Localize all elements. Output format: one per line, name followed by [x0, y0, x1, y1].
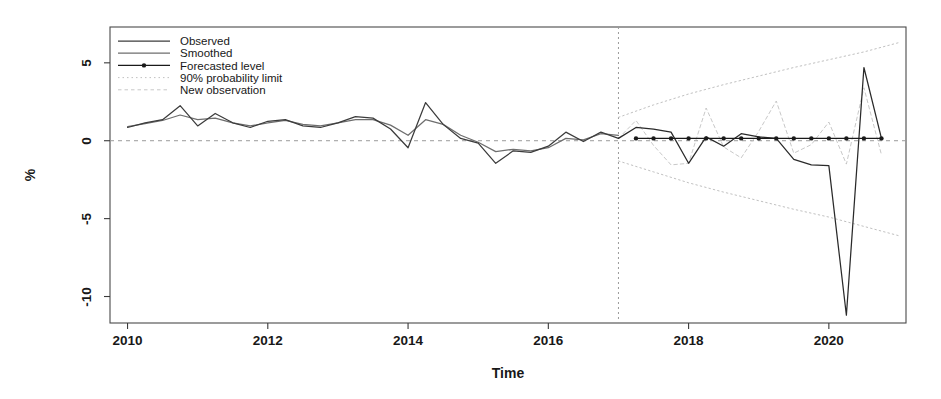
- forecast-point-marker: [739, 136, 743, 140]
- forecast-point-marker: [669, 136, 673, 140]
- forecast-point-marker: [686, 136, 690, 140]
- x-tick-label-2016: 2016: [533, 333, 563, 348]
- forecast-point-marker: [792, 136, 796, 140]
- x-tick-label-2020: 2020: [814, 333, 844, 348]
- forecast-point-marker: [774, 136, 778, 140]
- series-line-observed: [128, 103, 619, 164]
- x-tick-label-2010: 2010: [113, 333, 143, 348]
- series-line-smoothed: [128, 115, 619, 152]
- y-tick-label-neg10: -10: [79, 287, 94, 307]
- forecast-point-marker: [879, 136, 883, 140]
- forecast-point-marker: [651, 136, 655, 140]
- x-axis-title: Time: [492, 365, 524, 381]
- forecast-point-marker: [721, 136, 725, 140]
- series-line-new-observation: [618, 88, 881, 165]
- series-line-90-probability-limit-upper: [618, 43, 899, 118]
- y-axis-title: %: [22, 169, 38, 181]
- forecast-point-marker: [844, 136, 848, 140]
- forecast-point-marker: [809, 136, 813, 140]
- forecast-point-marker: [704, 136, 708, 140]
- forecast-point-marker: [827, 136, 831, 140]
- series-line-new-observation-actual: [618, 68, 881, 316]
- legend-label-new-observation: New observation: [180, 84, 266, 96]
- forecast-point-marker: [634, 136, 638, 140]
- y-tick-label-neg5: -5: [79, 213, 94, 225]
- forecast-chart-figure: ObservedSmoothedForecasted level90% prob…: [0, 0, 941, 399]
- x-tick-label-2018: 2018: [674, 333, 704, 348]
- forecast-point-marker: [862, 136, 866, 140]
- x-tick-label-2014: 2014: [393, 333, 423, 348]
- legend-key-marker-2: [142, 63, 146, 67]
- y-tick-label-5: 5: [79, 59, 94, 67]
- y-tick-label-0: 0: [79, 137, 94, 145]
- forecast-point-marker: [757, 136, 761, 140]
- legend-label-forecasted-level: Forecasted level: [180, 60, 264, 72]
- legend-label-90-probability-limit: 90% probability limit: [180, 72, 283, 84]
- x-tick-label-2012: 2012: [253, 333, 283, 348]
- legend-label-observed: Observed: [180, 35, 230, 47]
- legend-label-smoothed: Smoothed: [180, 47, 232, 59]
